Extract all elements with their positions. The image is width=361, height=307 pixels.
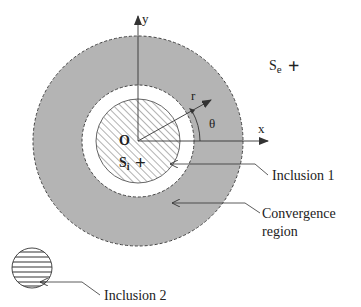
interior-source-plus-icon: + — [135, 152, 146, 173]
inclusion-diagram: y x O r θ Se + Si + Inclusion 1 Converge… — [0, 0, 361, 307]
inclusion-2-label: Inclusion 2 — [104, 288, 167, 303]
inclusion-1-label: Inclusion 1 — [272, 168, 335, 183]
theta-label: θ — [209, 116, 215, 131]
exterior-source-plus-icon: + — [288, 55, 299, 77]
convergence-region-label-line2: region — [262, 224, 298, 239]
origin-label: O — [119, 133, 130, 148]
inclusion-2-leader — [40, 282, 100, 295]
y-axis-label: y — [142, 11, 149, 26]
x-axis-label: x — [258, 121, 265, 136]
exterior-source-label: Se — [269, 58, 282, 75]
radius-label: r — [191, 88, 196, 103]
convergence-region-label-line1: Convergence — [262, 206, 336, 221]
